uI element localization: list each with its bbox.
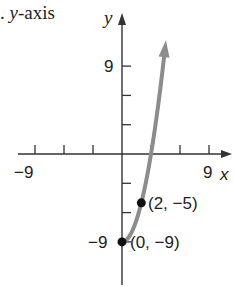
y-max-label: 9 (104, 58, 113, 75)
x-axis (18, 145, 232, 158)
data-point (137, 198, 146, 207)
point-label-2-neg5: (2, −5) (148, 195, 198, 212)
x-min-label: −9 (14, 164, 33, 181)
y-axis-label: y (104, 8, 112, 27)
graph-plot (0, 0, 234, 287)
point-label-0-neg9: (0, −9) (130, 234, 180, 251)
parabola-curve (122, 57, 164, 242)
x-axis-label: x (220, 166, 229, 183)
x-max-label: 9 (203, 164, 212, 181)
curve-arrow-icon (159, 40, 170, 58)
y-axis-arrow-icon (118, 13, 126, 25)
x-axis-arrow-icon (221, 150, 232, 158)
data-point (118, 237, 127, 246)
y-min-label: −9 (88, 234, 107, 251)
